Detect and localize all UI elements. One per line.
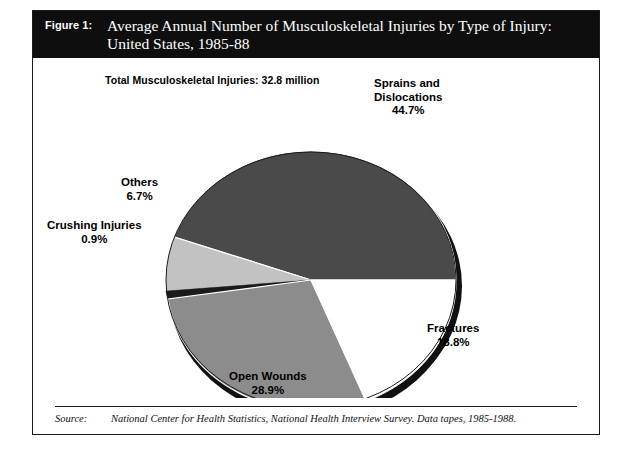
source-label: Source: [55,413,111,424]
slice-label-sprains-and-dislocations: Sprains and Dislocations 44.7% [374,77,442,118]
slice-label-sprains-percent: 44.7% [374,104,442,118]
slice-label-open-wounds-percent: 28.9% [229,384,307,398]
figure-number-label: Figure 1: [33,17,107,33]
source-note: Source: National Center for Health Stati… [55,413,581,424]
slice-label-fractures-name: Fractures [427,322,479,336]
figure-body: Total Musculoskeletal Injuries: 32.8 mil… [33,58,599,434]
slice-label-others-percent: 6.7% [121,190,158,204]
slice-label-open-wounds-name: Open Wounds [229,370,307,384]
figure-title-line-1: Average Annual Number of Musculoskeletal… [107,17,585,35]
slice-label-others-name: Others [121,176,158,190]
figure-header-bar: Figure 1: Average Annual Number of Muscu… [33,11,599,58]
source-divider [55,406,577,407]
slice-label-crushing-injuries: Crushing Injuries 0.9% [47,219,142,246]
slice-label-sprains-name-line-1: Sprains and [374,77,442,91]
slice-label-sprains-name-line-2: Dislocations [374,91,442,105]
slice-label-crushing-percent: 0.9% [47,233,142,247]
slice-label-crushing-name: Crushing Injuries [47,219,142,233]
slice-label-fractures: Fractures 18.8% [427,322,479,349]
figure-frame: Figure 1: Average Annual Number of Muscu… [32,10,600,435]
source-text: National Center for Health Statistics, N… [111,413,581,424]
figure-title-line-2: United States, 1985-88 [107,35,585,53]
slice-label-open-wounds: Open Wounds 28.9% [229,370,307,397]
slice-label-fractures-percent: 18.8% [427,336,479,350]
figure-title: Average Annual Number of Musculoskeletal… [107,17,599,52]
slice-label-others: Others 6.7% [121,176,158,203]
